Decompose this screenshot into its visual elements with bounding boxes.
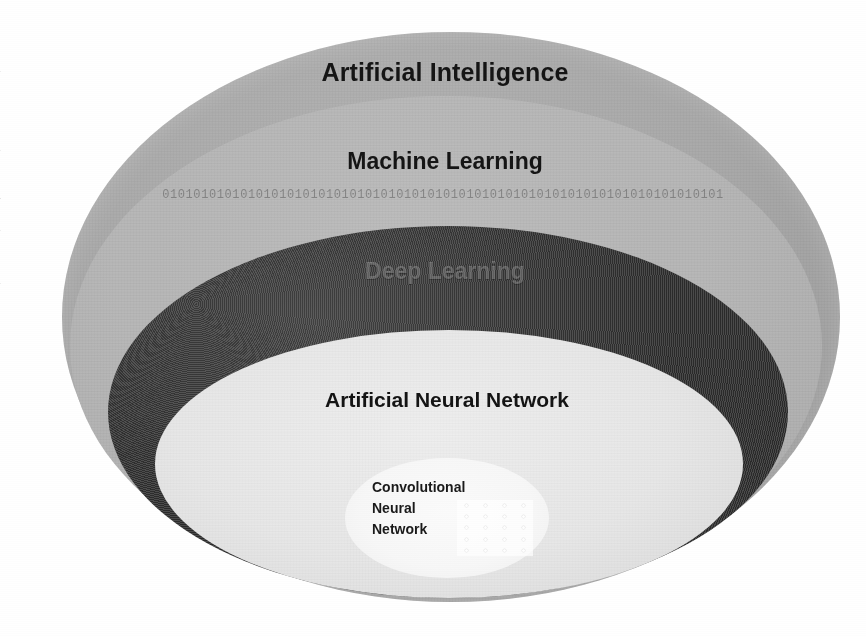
network-node-dot bbox=[522, 549, 525, 552]
label-convolutional-neural-network: Convolutional Neural Network bbox=[372, 477, 465, 540]
network-node-dot bbox=[484, 515, 487, 518]
margin-fragment: y bbox=[0, 187, 11, 214]
margin-fragment: t bbox=[0, 28, 11, 55]
cnn-label-line-1: Convolutional bbox=[372, 477, 465, 498]
page-margin-text-fragments: t n - e n s y n - n f - bbox=[0, 28, 11, 328]
network-node-dot bbox=[503, 504, 506, 507]
network-node-dot bbox=[465, 515, 468, 518]
margin-fragment: e bbox=[0, 108, 11, 135]
margin-fragment: s bbox=[0, 161, 11, 188]
network-node-dot bbox=[522, 538, 525, 541]
network-node-dot bbox=[465, 538, 468, 541]
network-node-dot bbox=[484, 549, 487, 552]
network-node-dot bbox=[503, 515, 506, 518]
margin-fragment: - bbox=[0, 320, 11, 329]
network-node-dot bbox=[465, 526, 468, 529]
margin-fragment: n bbox=[0, 55, 11, 82]
cnn-label-line-2: Neural bbox=[372, 498, 465, 519]
network-node-dot bbox=[503, 549, 506, 552]
network-node-dot bbox=[503, 526, 506, 529]
label-machine-learning: Machine Learning bbox=[12, 148, 866, 175]
label-deep-learning: Deep Learning bbox=[12, 258, 866, 285]
margin-fragment: n bbox=[0, 214, 11, 241]
binary-digits-decoration: 0101010101010101010101010101010101010101… bbox=[10, 188, 866, 202]
margin-fragment: n bbox=[0, 134, 11, 161]
network-node-dot bbox=[503, 538, 506, 541]
label-artificial-intelligence: Artificial Intelligence bbox=[12, 58, 866, 87]
network-node-dot bbox=[465, 504, 468, 507]
network-node-dot bbox=[522, 526, 525, 529]
margin-fragment: n bbox=[0, 267, 11, 294]
network-node-dot bbox=[465, 549, 468, 552]
margin-fragment: - bbox=[0, 81, 11, 108]
network-node-dot bbox=[484, 538, 487, 541]
margin-fragment: - bbox=[0, 240, 11, 267]
label-artificial-neural-network: Artificial Neural Network bbox=[14, 388, 866, 412]
network-node-dot bbox=[484, 526, 487, 529]
cnn-label-line-3: Network bbox=[372, 519, 465, 540]
figure-root: t n - e n s y n - n f - Artificial Intel… bbox=[0, 0, 866, 636]
network-node-dot bbox=[484, 504, 487, 507]
margin-fragment: f bbox=[0, 293, 11, 320]
network-node-dot bbox=[522, 515, 525, 518]
neural-network-node-grid-icon bbox=[457, 500, 533, 556]
network-node-dot bbox=[522, 504, 525, 507]
